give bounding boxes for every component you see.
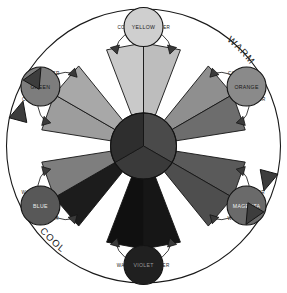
swatch-label-yellow: YELLOW bbox=[132, 24, 155, 30]
wedge-yellow-warm bbox=[144, 43, 181, 115]
direction-arrow-lower-right-2 bbox=[260, 169, 278, 190]
color-wheel-diagram: WARM COOL COOLERWARMERCOOLERWARMERCOOLER… bbox=[0, 0, 287, 293]
swatch-label-violet: VIOLET bbox=[133, 262, 154, 268]
swatch-label-orange: ORANGE bbox=[234, 84, 259, 90]
wedge-violet-warm bbox=[107, 177, 144, 249]
center-hub bbox=[111, 113, 177, 179]
color-wheel-canvas: WARM COOL COOLERWARMERCOOLERWARMERCOOLER… bbox=[0, 0, 287, 293]
wedge-violet-cool bbox=[144, 177, 181, 249]
direction-arrow-upper-left-2 bbox=[9, 101, 27, 122]
cool-arc-label: COOL bbox=[38, 225, 68, 255]
swatch-label-blue: BLUE bbox=[33, 203, 48, 209]
warm-arc-label: WARM bbox=[225, 34, 257, 67]
wedge-yellow-cool bbox=[107, 43, 144, 115]
